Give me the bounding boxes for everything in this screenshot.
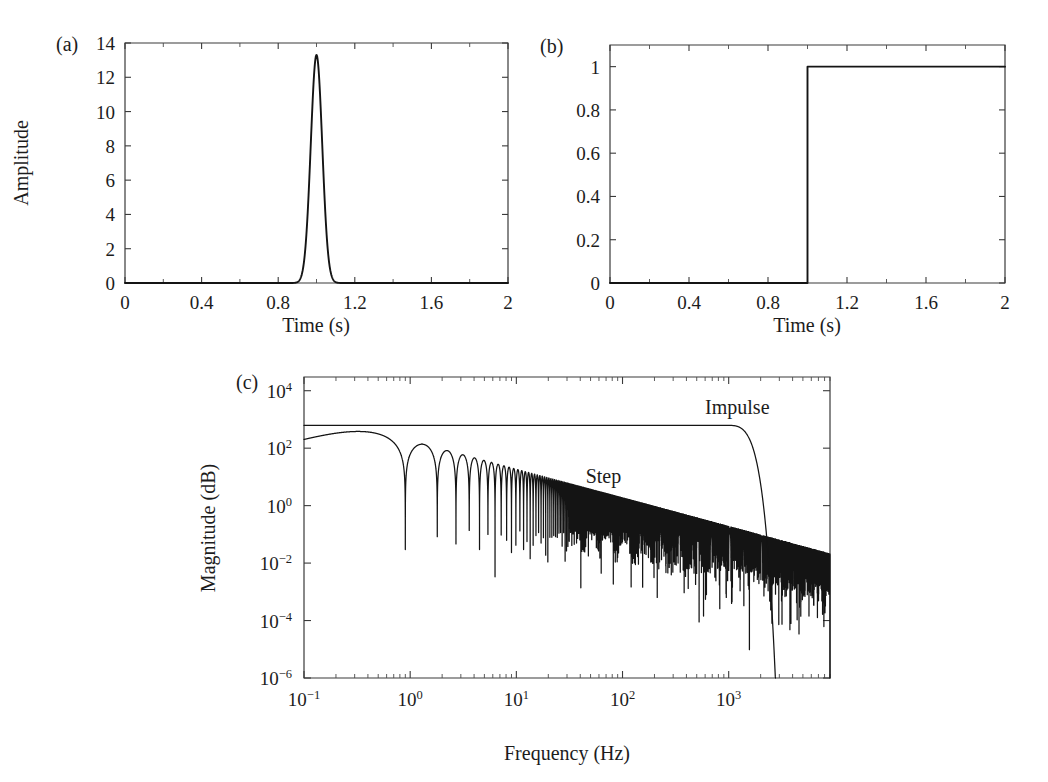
panel-c-ylabel: Magnitude (dB): [197, 464, 220, 592]
svg-text:2: 2: [1000, 292, 1010, 313]
svg-text:0.6: 0.6: [576, 143, 600, 164]
panel-b-step-curve: [610, 67, 1005, 283]
svg-text:10−6: 10−6: [260, 667, 292, 689]
svg-text:0.8: 0.8: [266, 292, 290, 313]
svg-text:104: 104: [267, 380, 293, 402]
svg-text:1.2: 1.2: [343, 292, 367, 313]
svg-text:0.4: 0.4: [677, 292, 701, 313]
panel-a-tick-labels: 00.40.81.21.6202468101214: [96, 33, 513, 313]
panel-a-xlabel: Time (s): [282, 314, 350, 337]
svg-text:2: 2: [503, 292, 513, 313]
svg-text:0: 0: [120, 292, 130, 313]
panel-c-tag: (c): [236, 371, 258, 394]
svg-text:14: 14: [96, 33, 116, 54]
svg-text:0: 0: [591, 273, 601, 294]
svg-text:4: 4: [106, 204, 116, 225]
svg-text:1.2: 1.2: [835, 292, 859, 313]
svg-text:0.4: 0.4: [190, 292, 214, 313]
svg-text:0: 0: [605, 292, 615, 313]
panel-a-chart: 00.40.81.21.6202468101214 (a) Time (s) A…: [0, 20, 520, 360]
svg-text:10−2: 10−2: [260, 552, 292, 574]
panel-b-chart: 00.40.81.21.6200.20.40.60.81 (b) Time (s…: [520, 20, 1040, 360]
svg-text:100: 100: [398, 688, 423, 710]
svg-text:1: 1: [591, 57, 601, 78]
panel-a-axes: [125, 43, 508, 283]
panel-c-step-annotation: Step: [586, 465, 622, 488]
svg-text:10−1: 10−1: [288, 688, 320, 710]
panel-a-impulse-curve: [125, 55, 508, 283]
panel-c-impulse-annotation: Impulse: [705, 396, 770, 419]
svg-text:103: 103: [716, 688, 741, 710]
panel-c-chart: 10−110010110210310−610−410−2100102104 (c…: [0, 360, 900, 780]
svg-text:10: 10: [96, 102, 115, 123]
svg-text:6: 6: [106, 170, 116, 191]
panel-a-tag: (a): [56, 33, 78, 56]
panel-b-tick-labels: 00.40.81.21.6200.20.40.60.81: [576, 57, 1010, 313]
svg-text:0.8: 0.8: [576, 100, 600, 121]
panel-b-tag: (b): [540, 35, 563, 58]
panel-a-ylabel: Amplitude: [10, 120, 33, 206]
svg-text:102: 102: [267, 437, 292, 459]
svg-text:1.6: 1.6: [420, 292, 444, 313]
panel-a-ticks: [125, 43, 508, 283]
panel-b-xlabel: Time (s): [773, 314, 841, 337]
svg-text:8: 8: [106, 136, 116, 157]
svg-text:100: 100: [267, 495, 292, 517]
svg-text:12: 12: [96, 67, 115, 88]
svg-text:2: 2: [106, 239, 116, 260]
panel-c-step-curve: [304, 431, 830, 678]
svg-text:1.6: 1.6: [914, 292, 938, 313]
svg-text:102: 102: [610, 688, 635, 710]
svg-text:101: 101: [504, 688, 529, 710]
svg-text:0.2: 0.2: [576, 230, 600, 251]
svg-text:0.4: 0.4: [576, 186, 600, 207]
svg-text:0.8: 0.8: [756, 292, 780, 313]
panel-c-xlabel: Frequency (Hz): [504, 742, 630, 765]
figure-root: 00.40.81.21.6202468101214 (a) Time (s) A…: [0, 0, 1048, 782]
svg-text:10−4: 10−4: [260, 610, 293, 632]
svg-text:0: 0: [106, 273, 116, 294]
